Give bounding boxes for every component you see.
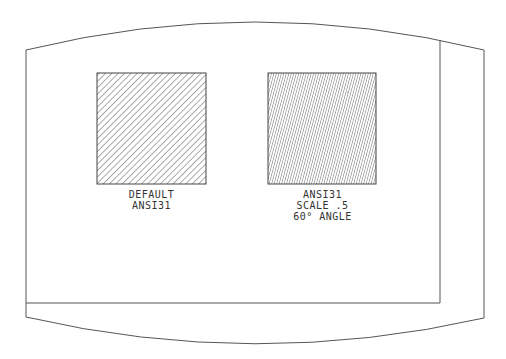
caption-line: SCALE .5 — [272, 200, 373, 211]
hatch-sample-scaled — [268, 73, 376, 184]
caption-scaled: ANSI31 SCALE .5 60° ANGLE — [272, 189, 373, 222]
caption-line: ANSI31 — [101, 200, 202, 211]
frame-bottom-curve — [26, 317, 484, 344]
caption-line: 60° ANGLE — [272, 211, 373, 222]
drawing-canvas — [0, 0, 506, 359]
screen-frame — [26, 22, 484, 344]
hatch-sample-default — [97, 73, 206, 184]
caption-default: DEFAULT ANSI31 — [101, 189, 202, 211]
frame-top-curve — [26, 22, 484, 50]
caption-line: ANSI31 — [272, 189, 373, 200]
caption-line: DEFAULT — [101, 189, 202, 200]
